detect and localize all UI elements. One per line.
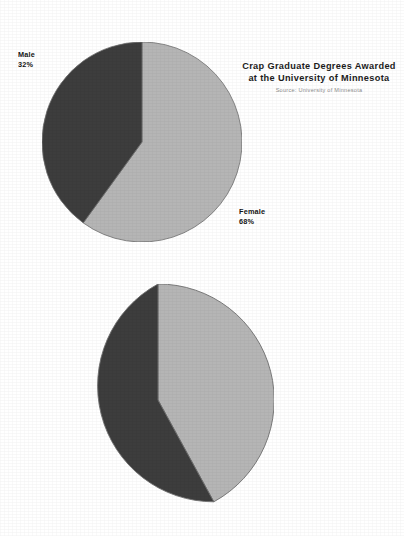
slice-label-male-pct-1: 32% [18,60,35,70]
chart-title-line-1a: Crap Graduate Degrees Awarded [236,60,402,72]
slice-label-female-pct-1: 68% [239,217,265,227]
pie-charts-page: { "page": { "background_color": "#ffffff… [0,0,404,536]
pie-graphic-1 [42,42,242,242]
pie-chart-panel-2: Good Graduated Degrees Awarded at the Un… [0,268,404,536]
slice-label-female-1: Female 68% [239,207,265,226]
chart-title-block-1: Crap Graduate Degrees Awarded at the Uni… [236,60,402,93]
slice-label-male-1: Male 32% [18,50,35,69]
chart-source-1: Source: University of Minnesota [236,87,402,93]
pie-chart-panel-1: Crap Graduate Degrees Awarded at the Uni… [0,0,404,268]
chart-title-line-1b: at the University of Minnesota [236,72,402,84]
slice-label-female-name-1: Female [239,207,265,216]
slice-label-male-name-1: Male [18,50,35,59]
pie-graphic-2 [42,284,274,516]
